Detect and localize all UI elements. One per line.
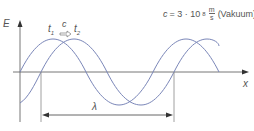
y-axis-label: E xyxy=(3,18,10,29)
lambda-label: λ xyxy=(92,101,97,112)
lambda-arrow-right-icon xyxy=(166,113,173,118)
unit-numerator: m xyxy=(209,6,215,13)
speed-of-light-formula: c = 3 · 108 m s (Vakuum) xyxy=(163,6,254,21)
y-axis-arrow-icon xyxy=(18,20,23,27)
label-t1: t1 xyxy=(48,23,54,36)
formula-unit: m s xyxy=(209,6,215,21)
t2-subscript: 2 xyxy=(77,30,80,36)
x-axis-arrow-icon xyxy=(242,70,249,75)
x-axis-label: x xyxy=(243,78,248,89)
lambda-arrow-left-icon xyxy=(42,113,49,118)
t1-subscript: 1 xyxy=(51,30,54,36)
formula-value: = 3 · 10 xyxy=(170,9,201,19)
label-c: c xyxy=(62,19,67,29)
formula-c: c xyxy=(163,9,168,19)
label-t2: t2 xyxy=(74,23,80,36)
formula-note: (Vakuum) xyxy=(218,9,254,19)
formula-exponent: 8 xyxy=(202,11,205,17)
propagation-arrow-icon xyxy=(60,31,71,37)
unit-denominator: s xyxy=(210,14,214,21)
